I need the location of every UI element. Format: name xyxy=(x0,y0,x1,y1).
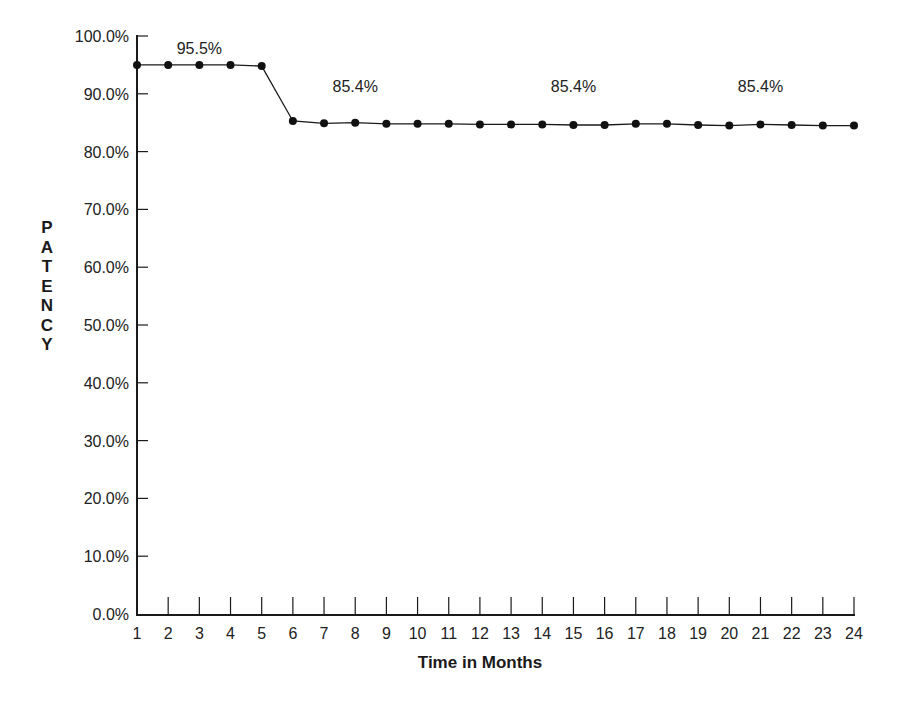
data-point xyxy=(289,117,297,125)
data-point xyxy=(133,61,141,69)
y-axis-label-letter: T xyxy=(37,257,57,277)
y-tick-label: 10.0% xyxy=(84,548,129,565)
y-axis-label: PATENCY xyxy=(37,218,57,355)
data-point xyxy=(351,119,359,127)
x-tick-label: 14 xyxy=(533,625,551,642)
y-tick-label: 60.0% xyxy=(84,259,129,276)
data-point xyxy=(227,61,235,69)
y-axis-label-letter: Y xyxy=(37,335,57,355)
data-point xyxy=(756,120,764,128)
y-tick-label: 40.0% xyxy=(84,375,129,392)
data-point xyxy=(601,121,609,129)
x-tick-label: 6 xyxy=(288,625,297,642)
data-point xyxy=(569,121,577,129)
x-tick-label: 12 xyxy=(471,625,489,642)
y-tick-label: 80.0% xyxy=(84,144,129,161)
x-tick-label: 18 xyxy=(658,625,676,642)
data-point-markers xyxy=(133,61,858,130)
x-tick-label: 24 xyxy=(845,625,863,642)
x-tick-label: 21 xyxy=(752,625,770,642)
y-tick-label: 100.0% xyxy=(75,28,129,45)
data-point xyxy=(694,121,702,129)
x-axis-ticks: 123456789101112131415161718192021222324 xyxy=(133,597,863,642)
y-axis-label-letter: N xyxy=(37,296,57,316)
data-point xyxy=(788,121,796,129)
patency-series-line xyxy=(137,65,854,126)
data-point xyxy=(445,120,453,128)
data-point xyxy=(632,120,640,128)
data-point xyxy=(258,62,266,70)
x-axis-label: Time in Months xyxy=(418,653,542,672)
data-point xyxy=(382,120,390,128)
y-tick-label: 50.0% xyxy=(84,317,129,334)
y-tick-label: 20.0% xyxy=(84,490,129,507)
x-tick-label: 9 xyxy=(382,625,391,642)
data-point xyxy=(725,122,733,130)
data-point xyxy=(414,120,422,128)
y-tick-label: 30.0% xyxy=(84,433,129,450)
x-tick-label: 4 xyxy=(226,625,235,642)
data-point xyxy=(320,119,328,127)
value-annotation: 95.5% xyxy=(177,40,222,57)
x-tick-label: 2 xyxy=(164,625,173,642)
data-point xyxy=(819,122,827,130)
patency-line-chart: 0.0%10.0%20.0%30.0%40.0%50.0%60.0%70.0%8… xyxy=(0,0,905,701)
y-tick-label: 0.0% xyxy=(93,606,129,623)
y-axis-label-letter: C xyxy=(37,316,57,336)
data-point xyxy=(850,122,858,130)
x-tick-label: 22 xyxy=(783,625,801,642)
value-annotation: 85.4% xyxy=(333,78,378,95)
x-tick-label: 11 xyxy=(440,625,457,642)
x-tick-label: 3 xyxy=(195,625,204,642)
y-tick-label: 90.0% xyxy=(84,86,129,103)
data-point xyxy=(507,120,515,128)
y-tick-label: 70.0% xyxy=(84,201,129,218)
x-tick-label: 13 xyxy=(502,625,520,642)
y-axis-label-letter: E xyxy=(37,277,57,297)
x-tick-label: 17 xyxy=(627,625,645,642)
x-tick-label: 1 xyxy=(133,625,142,642)
value-annotations: 95.5%85.4%85.4%85.4% xyxy=(177,40,784,95)
x-tick-label: 16 xyxy=(596,625,614,642)
x-tick-label: 19 xyxy=(689,625,707,642)
value-annotation: 85.4% xyxy=(738,78,783,95)
x-tick-label: 23 xyxy=(814,625,832,642)
x-tick-label: 5 xyxy=(257,625,266,642)
x-tick-label: 8 xyxy=(351,625,360,642)
x-tick-label: 15 xyxy=(565,625,583,642)
x-tick-label: 10 xyxy=(409,625,427,642)
y-axis-label-letter: A xyxy=(37,238,57,258)
value-annotation: 85.4% xyxy=(551,78,596,95)
data-point xyxy=(663,120,671,128)
data-point xyxy=(476,120,484,128)
data-point xyxy=(538,120,546,128)
y-axis-label-letter: P xyxy=(37,218,57,238)
x-tick-label: 20 xyxy=(720,625,738,642)
data-point xyxy=(195,61,203,69)
x-tick-label: 7 xyxy=(320,625,329,642)
data-point xyxy=(164,61,172,69)
